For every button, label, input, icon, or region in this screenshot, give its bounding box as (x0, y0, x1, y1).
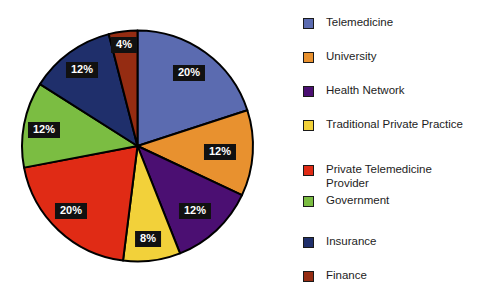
legend-item-label: Finance (326, 269, 367, 283)
legend-item-label: Insurance (326, 235, 377, 249)
legend-item[interactable]: Insurance (303, 235, 482, 249)
legend-color-swatch-icon (303, 237, 314, 248)
legend-item[interactable]: Government (303, 194, 482, 208)
legend-item[interactable]: Traditional Private Practice (303, 118, 482, 132)
legend-item[interactable]: Telemedicine (303, 16, 482, 30)
legend-color-swatch-icon (303, 196, 314, 207)
pie-slice-value-label: 12% (28, 122, 60, 138)
pie-slice-value-label: 4% (111, 37, 137, 53)
pie-chart-figure: 20%12%12%8%20%12%12%4% TelemedicineUnive… (0, 0, 482, 284)
pie-chart-plot-area: 20%12%12%8%20%12%12%4% (0, 0, 290, 284)
pie-slice-value-label: 20% (173, 65, 205, 81)
legend-color-swatch-icon (303, 165, 314, 176)
legend-color-swatch-icon (303, 18, 314, 29)
legend-item[interactable]: University (303, 50, 482, 64)
pie-slice-value-label: 12% (179, 203, 211, 219)
legend-item-label: Telemedicine (326, 16, 393, 30)
legend-item-label: Government (326, 194, 389, 208)
pie-slice-value-label: 12% (204, 144, 236, 160)
legend-item[interactable]: Health Network (303, 84, 482, 98)
legend-color-swatch-icon (303, 52, 314, 63)
legend-color-swatch-icon (303, 86, 314, 97)
legend-item[interactable]: Private Telemedicine Provider (303, 163, 482, 190)
legend-item-label: University (326, 50, 376, 64)
legend-item-label: Health Network (326, 84, 405, 98)
pie-slice-value-label: 12% (66, 62, 98, 78)
legend-color-swatch-icon (303, 120, 314, 131)
pie-slice-value-label: 20% (55, 203, 87, 219)
pie-slice-value-label: 8% (135, 231, 161, 247)
legend-item[interactable]: Finance (303, 269, 482, 283)
chart-legend: TelemedicineUniversityHealth NetworkTrad… (303, 0, 482, 284)
legend-item-label: Traditional Private Practice (326, 118, 463, 132)
legend-item-label: Private Telemedicine Provider (326, 163, 432, 190)
legend-color-swatch-icon (303, 271, 314, 282)
